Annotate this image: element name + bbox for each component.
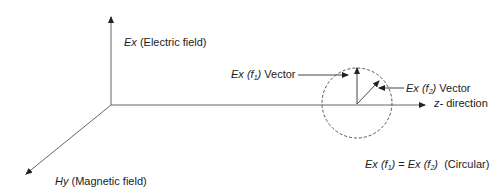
polarization-diagram: Ex (Electric field) Ex (f1) Vector Ex (f… bbox=[0, 0, 499, 195]
z-axis-label: z- direction bbox=[434, 97, 488, 110]
hy-axis-label: Hy (Magnetic field) bbox=[55, 175, 147, 188]
vector-f1-label: Ex (f1) Vector bbox=[231, 68, 295, 84]
ex-axis-label: Ex (Electric field) bbox=[124, 36, 207, 49]
circular-equation: Ex (f1) = Ex (f2) (Circular) bbox=[365, 158, 489, 174]
vector-f2 bbox=[357, 81, 379, 104]
hy-axis bbox=[26, 105, 111, 174]
vector-f2-label: Ex (f2) Vector bbox=[406, 82, 470, 98]
